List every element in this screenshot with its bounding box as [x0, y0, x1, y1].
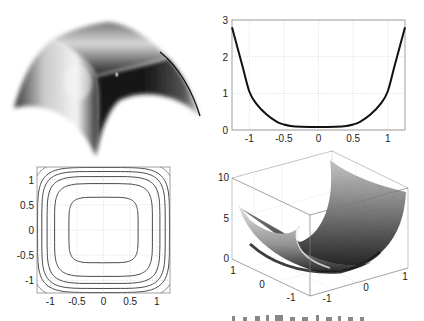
bowl-surface-panel: 10 5 0 1 0 -1 -1 0 1 — [218, 151, 408, 304]
y-tick: 1 — [230, 265, 236, 276]
y-tick: 0.5 — [20, 200, 34, 211]
x-tick: 0.5 — [123, 296, 137, 307]
x-tick: 0 — [363, 282, 369, 293]
line-series — [232, 27, 405, 127]
x-tick: 1 — [385, 133, 391, 144]
y-tick: 0 — [28, 225, 34, 236]
z-tick: 0 — [223, 253, 229, 264]
z-tick: 10 — [218, 172, 230, 183]
y-tick: 3 — [222, 15, 228, 26]
y-tick: 1 — [222, 88, 228, 99]
x-tick: 1 — [154, 296, 160, 307]
x-tick: -1 — [46, 296, 55, 307]
x-tick: 0.5 — [346, 133, 360, 144]
z-tick: 5 — [223, 213, 229, 224]
x-tick: 0 — [101, 296, 107, 307]
x-tick: -0.5 — [275, 133, 293, 144]
y-tick: 0 — [222, 125, 228, 136]
contour-plot-panel: -1-0.500.51-1-0.500.51 — [17, 152, 186, 308]
y-tick: -1 — [287, 292, 296, 303]
y-tick: -0.5 — [17, 250, 35, 261]
figure: -1-0.500.510123 -1-0.500.51-1-0.500.51 — [0, 0, 424, 321]
y-tick: 0 — [259, 279, 265, 290]
x-tick: -0.5 — [68, 296, 86, 307]
dome-surface-panel — [14, 22, 200, 156]
caption-fragment — [232, 315, 364, 321]
x-tick: -1 — [245, 133, 254, 144]
x-tick: -1 — [323, 293, 332, 304]
y-tick: 1 — [28, 175, 34, 186]
line-plot-panel: -1-0.500.510123 — [222, 15, 405, 144]
x-tick: 1 — [402, 271, 408, 282]
x-tick: 0 — [316, 133, 322, 144]
y-tick: 2 — [222, 52, 228, 63]
y-tick: -1 — [25, 275, 34, 286]
